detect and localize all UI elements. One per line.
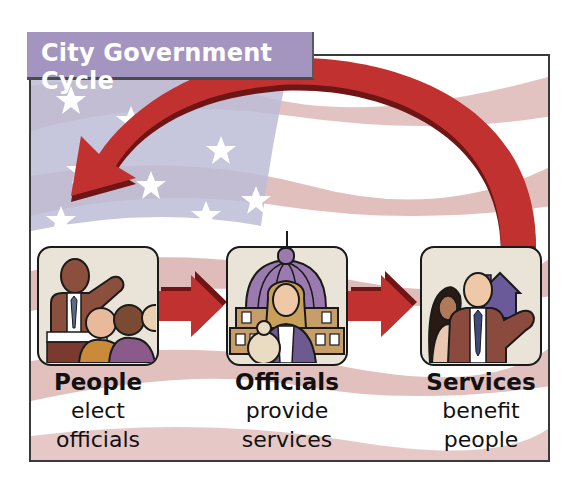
- officials-heading: Officials: [219, 368, 355, 396]
- services-heading: Services: [413, 368, 549, 396]
- people-panel: [37, 246, 159, 366]
- people-label: People elect officials: [31, 368, 165, 454]
- services-label: Services benefit people: [413, 368, 549, 454]
- services-line1: benefit: [413, 396, 549, 425]
- services-line2: people: [413, 425, 549, 454]
- family-with-house-icon: [422, 248, 539, 363]
- people-heading: People: [31, 368, 165, 396]
- officials-line2: services: [219, 425, 355, 454]
- people-line2: officials: [31, 425, 165, 454]
- diagram-frame: People elect officials Officials provide…: [29, 54, 550, 462]
- diagram-title: City Government Cycle: [41, 39, 312, 95]
- people-at-meeting-icon: [39, 248, 156, 363]
- officials-line1: provide: [219, 396, 355, 425]
- diagram-title-box: City Government Cycle: [27, 32, 314, 80]
- officials-label: Officials provide services: [219, 368, 355, 454]
- services-panel: [420, 246, 542, 366]
- official-at-capitol-icon: [228, 248, 345, 363]
- officials-panel: [226, 246, 348, 366]
- people-line1: elect: [31, 396, 165, 425]
